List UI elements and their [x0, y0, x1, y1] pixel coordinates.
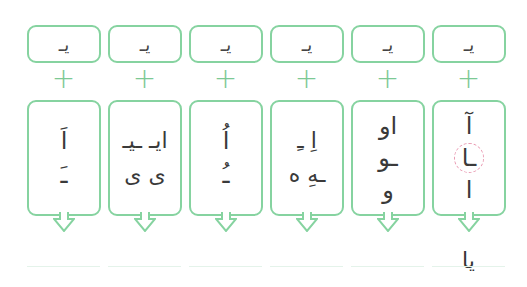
vowel-form: اُ	[223, 124, 230, 158]
vowel-box: اُ ـُ	[189, 100, 263, 216]
vowel-form: آ	[466, 110, 473, 142]
top-letter-box: یـ	[108, 25, 182, 63]
top-letter-box: یـ	[27, 25, 101, 63]
column-3: یـ + اُ ـُ	[189, 0, 262, 287]
vowel-form: اِ ـِ	[297, 124, 317, 158]
answer-line	[108, 266, 181, 267]
column-5: یـ + او ـو و	[351, 0, 424, 287]
column-4: یـ + اِ ـِ ـهِ ه	[270, 0, 343, 287]
answer-line	[189, 266, 262, 267]
vowel-form: ـهِ ه	[289, 158, 326, 192]
top-letter-box: یـ	[432, 25, 506, 63]
answer-text[interactable]: یا	[432, 248, 505, 273]
top-letter: یـ	[464, 34, 474, 55]
vowel-form: ـَ	[60, 158, 67, 192]
arrow-down-icon	[377, 212, 399, 232]
top-letter: یـ	[140, 34, 150, 55]
answer-line	[432, 266, 505, 267]
top-letter-box: یـ	[270, 25, 344, 63]
arrow-down-icon	[458, 212, 480, 232]
answer-line	[270, 266, 343, 267]
plus-icon: +	[351, 64, 424, 94]
plus-icon: +	[108, 64, 181, 94]
top-letter: یـ	[221, 34, 231, 55]
highlighted-vowel-form: ـا	[454, 143, 484, 173]
vowel-form: اَ	[61, 124, 68, 158]
vowel-form: ا	[466, 174, 473, 206]
plus-icon: +	[189, 64, 262, 94]
column-1: یـ + اَ ـَ	[27, 0, 100, 287]
vowel-form: ایـ ـیـ	[122, 124, 167, 158]
column-6: یـ + آ ـا ا یا	[432, 0, 505, 287]
top-letter: یـ	[59, 34, 69, 55]
arrow-down-icon	[53, 212, 75, 232]
vowel-box: اِ ـِ ـهِ ه	[270, 100, 344, 216]
top-letter: یـ	[302, 34, 312, 55]
plus-icon: +	[27, 64, 100, 94]
top-letter: یـ	[383, 34, 393, 55]
arrow-down-icon	[296, 212, 318, 232]
arrow-down-icon	[134, 212, 156, 232]
answer-line	[351, 266, 424, 267]
vowel-box: اَ ـَ	[27, 100, 101, 216]
vowel-box: آ ـا ا	[432, 100, 506, 216]
vowel-box: او ـو و	[351, 100, 425, 216]
plus-icon: +	[432, 64, 505, 94]
top-letter-box: یـ	[189, 25, 263, 63]
vowel-form: ـُ	[222, 158, 229, 192]
vowel-form: او	[379, 110, 397, 142]
arrow-down-icon	[215, 212, 237, 232]
plus-icon: +	[270, 64, 343, 94]
vowel-form: ی ی	[124, 158, 165, 192]
vowel-form: و	[382, 174, 394, 206]
answer-line	[27, 266, 100, 267]
vowel-form: ـو	[378, 142, 397, 174]
vowel-box: ایـ ـیـ ی ی	[108, 100, 182, 216]
column-2: یـ + ایـ ـیـ ی ی	[108, 0, 181, 287]
top-letter-box: یـ	[351, 25, 425, 63]
